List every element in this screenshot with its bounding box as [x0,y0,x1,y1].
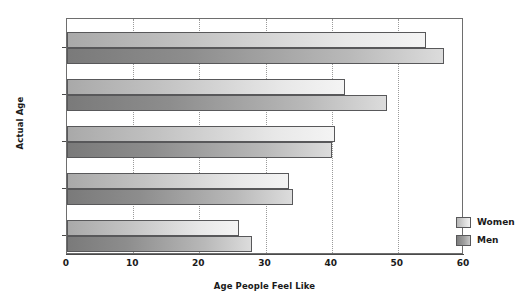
bar-men-55–64 [67,95,387,111]
x-tick-label-10: 10 [126,258,139,268]
bar-men-45–54 [67,142,332,158]
x-tick-label-30: 30 [258,258,271,268]
x-tick-label-60: 60 [457,258,470,268]
bar-women-55–64 [67,79,345,95]
y-tick-mark-25–34 [62,235,66,236]
bar-women-45–54 [67,126,335,142]
x-tick-label-40: 40 [324,258,337,268]
x-tick-label-50: 50 [391,258,404,268]
legend-label-women: Women [477,217,515,227]
legend-swatch-women-icon [456,217,471,228]
bar-men-65–74 [67,48,444,64]
y-tick-mark-55–64 [62,94,66,95]
bar-women-25–34 [67,220,239,236]
bar-men-35–44 [67,189,293,205]
bar-women-35–44 [67,173,289,189]
y-tick-mark-45–54 [62,141,66,142]
x-axis-line [66,254,464,255]
y-tick-mark-65–74 [62,47,66,48]
x-tick-label-20: 20 [192,258,205,268]
legend-item-women: Women [456,213,515,231]
legend: Women Men [456,213,515,249]
bar-men-25–34 [67,236,252,252]
legend-swatch-men-icon [456,235,471,246]
plot-area: Women Men [66,18,463,254]
legend-item-men: Men [456,231,515,249]
y-axis-title: Actual Age [15,73,25,173]
x-tick-label-0: 0 [63,258,69,268]
legend-label-men: Men [477,235,498,245]
x-axis-title: Age People Feel Like [66,281,463,291]
bar-women-65–74 [67,32,426,48]
y-tick-mark-35–44 [62,188,66,189]
